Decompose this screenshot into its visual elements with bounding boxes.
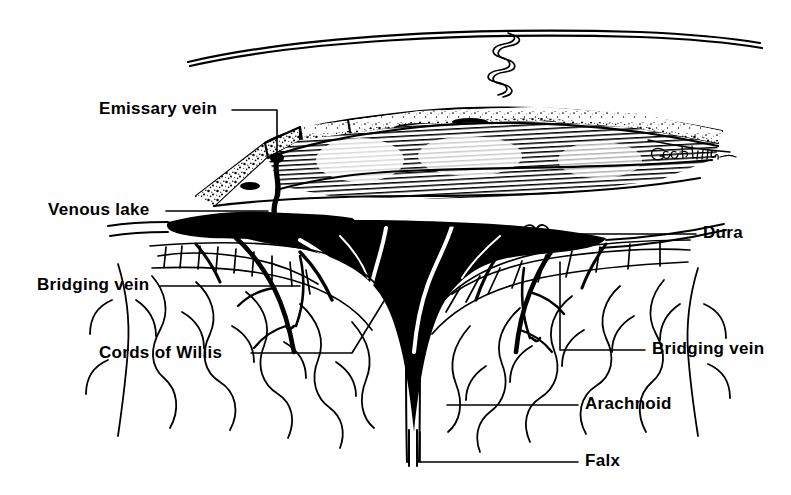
anatomy-illustration xyxy=(0,0,791,495)
label-venous-lake: Venous lake xyxy=(48,201,150,218)
scalp-vessel xyxy=(488,33,519,97)
sulcal-vein-left xyxy=(286,256,303,329)
label-arachnoid: Arachnoid xyxy=(585,395,672,412)
label-bridging-vein-left: Bridging vein xyxy=(37,276,150,293)
label-emissary-vein: Emissary vein xyxy=(99,100,217,117)
leader-falx xyxy=(420,432,578,462)
cerebral-cortex-right xyxy=(448,268,730,452)
label-falx: Falx xyxy=(585,452,620,469)
label-dura: Dura xyxy=(703,224,743,241)
leader-bridging-vein-right xyxy=(560,262,645,350)
label-bridging-vein-right: Bridging vein xyxy=(652,340,765,357)
figure-canvas: Emissary vein Venous lake Bridging vein … xyxy=(0,0,791,495)
label-cords-of-willis: Cords of Willis xyxy=(99,344,222,361)
scalp xyxy=(188,31,762,66)
